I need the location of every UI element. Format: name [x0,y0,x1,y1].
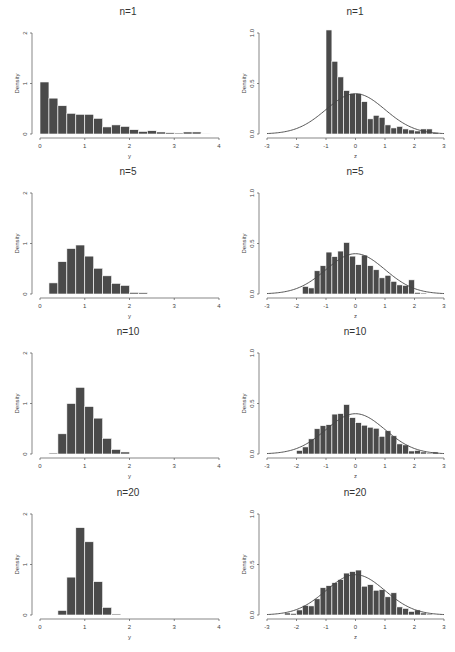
histogram-bar [367,427,373,454]
histogram-bar [379,436,385,454]
x-tick-label: 3 [173,303,177,309]
x-tick-label: 4 [217,624,221,630]
x-tick-label: 0 [354,463,358,469]
panel-title: n=5 [347,166,364,177]
panel-title: n=20 [344,487,367,498]
histogram-bar [420,613,426,615]
histogram-bar [285,613,291,615]
y-axis-label: Density [14,73,20,93]
y-tick-label: 1 [22,241,28,245]
x-tick-label: 2 [128,463,132,469]
histogram-bar [94,582,103,615]
histogram-bars [49,387,130,454]
x-tick-label: 3 [173,143,177,149]
panel-row3-right: n=100.00.51.0Density-3-2-10123z [241,326,446,479]
x-tick-label: -2 [294,143,300,149]
x-tick-label: -2 [294,303,300,309]
x-tick-label: 1 [83,463,87,469]
histogram-bar [379,117,385,134]
x-tick-label: 0 [354,303,358,309]
y-tick-label: 0.5 [249,79,255,88]
x-tick-label: 0 [38,624,42,630]
x-axis-label: y [128,313,131,319]
x-tick-label: 1 [383,624,387,630]
y-tick-label: 2 [22,191,28,195]
histogram-bar [49,98,58,134]
histogram-bar [344,242,350,294]
x-tick-label: 1 [83,624,87,630]
histogram-bar [338,580,344,615]
panel-row3-left: n=10012Density01234y [14,326,221,479]
panel-row4-right: n=200.00.51.0Density-3-2-10123z [241,487,446,640]
histogram-bar [415,450,421,454]
histogram-bar [344,91,350,134]
histogram-bar [201,133,210,134]
histogram-bar [103,607,112,615]
y-axis-label: Density [241,73,247,93]
histogram-bar [67,113,76,134]
y-tick-label: 0.0 [249,610,255,619]
histogram-bar [361,255,367,294]
histogram-bar [361,102,367,134]
panel-row2-left: n=5012Density01234y [14,166,221,319]
histogram-bars [285,570,432,615]
histogram-bar [58,434,67,454]
x-tick-label: -1 [323,624,329,630]
histogram-bar [291,613,297,615]
histogram-bar [350,94,356,134]
histogram-bar [420,293,426,294]
histogram-bar [147,131,156,134]
histogram-bar [397,285,403,294]
histogram-bar [356,94,362,134]
histogram-bar [67,249,76,294]
y-axis-label: Density [14,554,20,574]
histogram-bar [138,293,147,294]
y-tick-label: 2 [22,512,28,516]
x-tick-label: 0 [38,463,42,469]
x-tick-label: 3 [442,463,446,469]
histogram-bar [76,114,85,134]
x-tick-label: 2 [413,143,417,149]
histogram-bar [356,570,362,615]
panel-title: n=10 [344,326,367,337]
histogram-bar [76,528,85,615]
histogram-bar [426,614,432,615]
histogram-bar [356,423,362,454]
x-tick-label: 1 [383,143,387,149]
histogram-bar [361,586,367,615]
histogram-bar [385,431,391,454]
histogram-bar [49,453,58,454]
x-axis-label: z [354,473,357,479]
histogram-bar [379,278,385,294]
histogram-bar [367,119,373,134]
y-tick-label: 0.0 [249,449,255,458]
x-tick-label: 1 [383,303,387,309]
x-tick-label: 2 [128,143,132,149]
histogram-bar [58,262,67,294]
panel-title: n=5 [120,166,137,177]
x-axis-label: y [128,473,131,479]
histogram-bar [367,585,373,615]
x-axis-label: z [354,634,357,640]
histogram-bar [121,285,130,294]
y-tick-label: 1 [22,562,28,566]
panel-row1-right: n=10.00.51.0Density-3-2-10123z [241,6,446,159]
histogram-bars [297,405,439,454]
panel-title: n=1 [120,6,137,17]
histogram-bar [103,276,112,294]
histogram-bar [103,438,112,454]
histogram-bar [165,133,174,134]
x-tick-label: -1 [323,143,329,149]
histogram-bars [40,82,210,134]
panel-title: n=10 [117,326,140,337]
y-tick-label: 0 [22,613,28,617]
histogram-bar [338,77,344,134]
histogram-bar [314,429,320,454]
y-tick-label: 0 [22,292,28,296]
y-axis-label: Density [241,393,247,413]
x-tick-label: 4 [217,143,221,149]
histogram-bar [397,126,403,134]
x-tick-label: 2 [413,463,417,469]
histogram-bar [426,453,432,454]
histogram-bar [332,414,338,454]
